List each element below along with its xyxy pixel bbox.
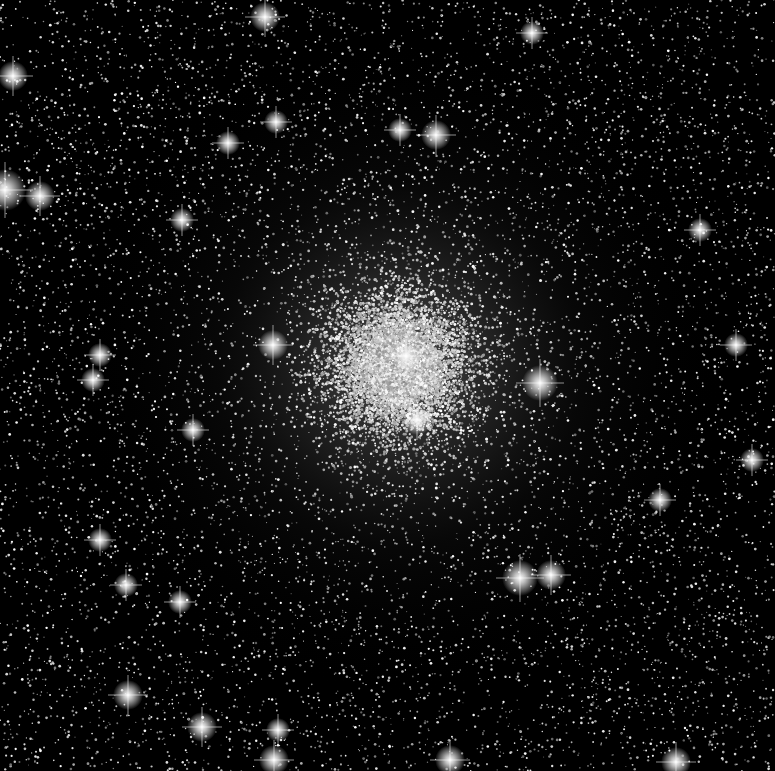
star-cluster-image: Globular star cluster — [0, 0, 775, 771]
starfield-canvas — [0, 0, 775, 771]
